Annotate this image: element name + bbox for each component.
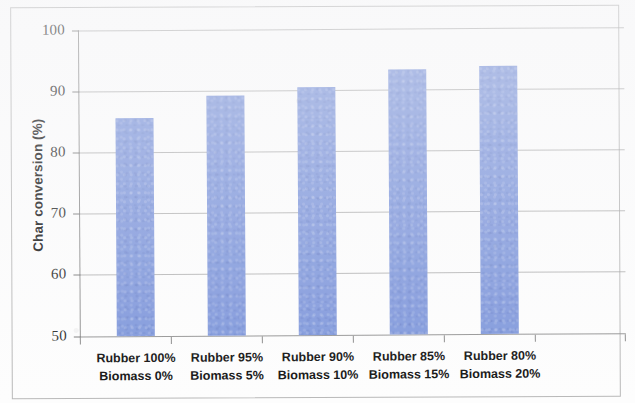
gridline-60 bbox=[79, 271, 625, 275]
x-category-label-1-line1: Rubber 95% bbox=[191, 350, 263, 364]
gridline-70 bbox=[79, 210, 625, 214]
gridline-90 bbox=[78, 88, 624, 92]
y-axis-line bbox=[78, 30, 81, 337]
x-tick-4 bbox=[444, 335, 445, 342]
bar-rubber-100-biomass-0 bbox=[115, 118, 154, 336]
y-axis-title: Char conversion (%) bbox=[30, 85, 46, 285]
gridline-80 bbox=[79, 149, 625, 153]
y-tick-100 bbox=[72, 30, 79, 31]
x-tick-0 bbox=[80, 337, 81, 344]
y-tick-label-60: 60 bbox=[22, 266, 66, 283]
bar-rubber-90-biomass-10 bbox=[297, 87, 337, 335]
y-tick-label-70: 70 bbox=[22, 205, 66, 222]
y-tick-90 bbox=[72, 91, 79, 92]
x-category-label-2-line1: Rubber 90% bbox=[282, 350, 354, 364]
x-category-label-4-line2: Biomass 20% bbox=[436, 365, 564, 384]
figure-scanned-bar-chart: Char conversion (%) 100 90 80 70 60 50 bbox=[0, 0, 635, 403]
x-tick-5 bbox=[535, 335, 536, 342]
gridline-100 bbox=[78, 27, 624, 31]
y-tick-label-90: 90 bbox=[21, 83, 65, 100]
bar-rubber-95-biomass-5 bbox=[206, 95, 245, 335]
x-tick-3 bbox=[353, 336, 354, 343]
x-tick-2 bbox=[262, 336, 263, 343]
bar-rubber-85-biomass-15 bbox=[388, 69, 428, 334]
plot-area: Char conversion (%) 100 90 80 70 60 50 bbox=[0, 0, 635, 403]
x-category-label-4: Rubber 80% Biomass 20% bbox=[436, 347, 564, 384]
y-tick-60 bbox=[73, 274, 80, 275]
x-tick-1 bbox=[171, 337, 172, 344]
y-tick-70 bbox=[73, 213, 80, 214]
y-tick-label-80: 80 bbox=[22, 144, 66, 161]
bar-rubber-80-biomass-20 bbox=[479, 66, 519, 334]
x-tick-6 bbox=[625, 334, 626, 341]
x-category-label-3-line1: Rubber 85% bbox=[373, 349, 445, 363]
y-tick-label-50: 50 bbox=[23, 328, 67, 345]
y-tick-label-100: 100 bbox=[21, 22, 65, 39]
y-tick-80 bbox=[73, 152, 80, 153]
x-category-label-4-line1: Rubber 80% bbox=[464, 349, 536, 363]
